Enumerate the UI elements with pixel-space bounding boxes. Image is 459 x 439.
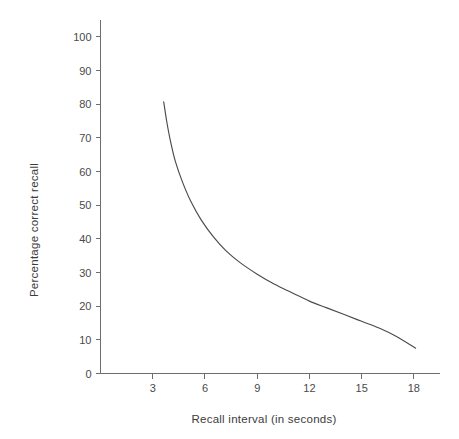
x-tick-label: 15 <box>356 382 368 394</box>
x-tick-label: 6 <box>202 382 208 394</box>
y-tick-label: 80 <box>79 98 91 110</box>
x-axis-tick-labels: 369121518 <box>150 382 420 394</box>
x-tick-label: 18 <box>408 382 420 394</box>
y-axis-title: Percentage correct recall <box>28 163 40 297</box>
x-axis-ticks <box>153 374 414 379</box>
y-axis-ticks <box>96 37 101 374</box>
y-axis: 0102030405060708090100 <box>73 20 100 380</box>
y-tick-label: 70 <box>79 132 91 144</box>
chart-figure: 0102030405060708090100 369121518 Recall … <box>0 0 459 439</box>
y-tick-label: 0 <box>85 368 91 380</box>
y-tick-label: 30 <box>79 267 91 279</box>
y-tick-label: 100 <box>73 31 91 43</box>
y-tick-label: 90 <box>79 65 91 77</box>
y-tick-label: 40 <box>79 233 91 245</box>
x-tick-label: 3 <box>150 382 156 394</box>
x-axis-title: Recall interval (in seconds) <box>191 413 336 425</box>
line-chart: 0102030405060708090100 369121518 Recall … <box>0 0 459 439</box>
x-axis: 369121518 <box>101 374 441 394</box>
y-tick-label: 50 <box>79 199 91 211</box>
y-tick-label: 20 <box>79 300 91 312</box>
y-axis-tick-labels: 0102030405060708090100 <box>73 31 91 380</box>
x-tick-label: 12 <box>303 382 315 394</box>
y-tick-label: 10 <box>79 334 91 346</box>
x-tick-label: 9 <box>254 382 260 394</box>
forgetting-curve <box>164 102 416 348</box>
y-tick-label: 60 <box>79 166 91 178</box>
